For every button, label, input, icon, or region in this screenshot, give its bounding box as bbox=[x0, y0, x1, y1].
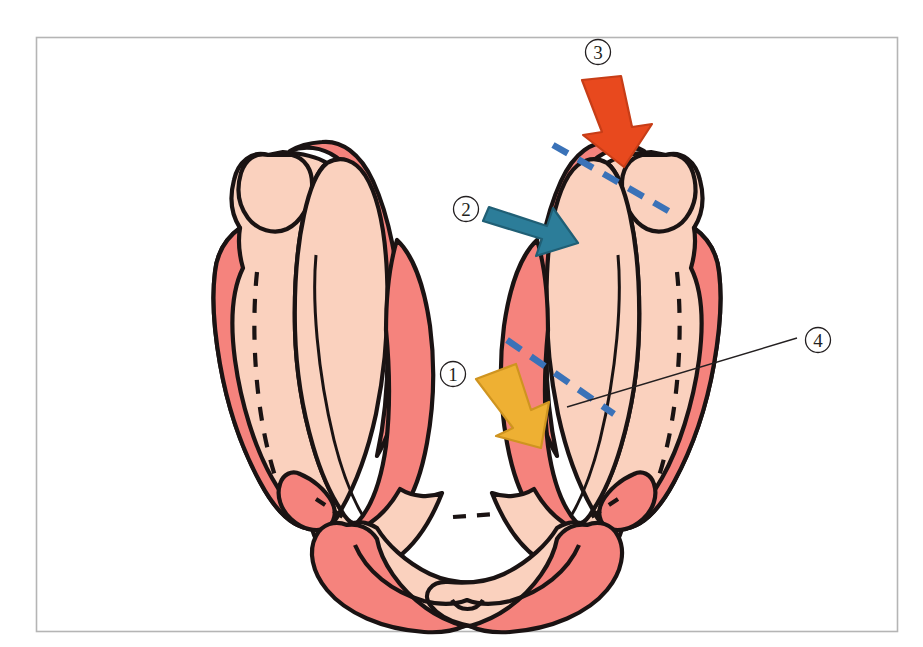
figure-container: 1 2 3 4 bbox=[0, 0, 923, 647]
marker-1[interactable]: 1 bbox=[441, 362, 466, 387]
marker-2-label: 2 bbox=[461, 199, 471, 220]
marker-1-label: 1 bbox=[448, 364, 458, 385]
figure-frame bbox=[37, 38, 898, 632]
marker-4-label: 4 bbox=[813, 330, 823, 351]
marker-3-label: 3 bbox=[593, 42, 603, 63]
marker-2[interactable]: 2 bbox=[454, 197, 479, 222]
marker-3[interactable]: 3 bbox=[586, 40, 611, 65]
anatomical-diagram: 1 2 3 4 bbox=[0, 0, 923, 647]
marker-4[interactable]: 4 bbox=[806, 328, 831, 353]
